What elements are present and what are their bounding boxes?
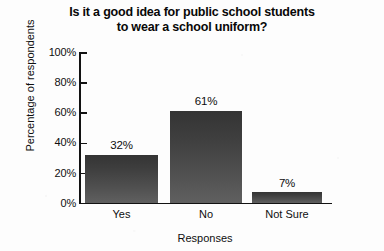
x-category-label-not-sure: Not Sure bbox=[250, 208, 324, 220]
chart-title-line-1: Is it a good idea for public school stud… bbox=[0, 5, 384, 20]
y-tick-label-20: 20% bbox=[16, 168, 76, 179]
y-tick-label-100: 100% bbox=[16, 47, 76, 58]
chart-title-line-2: to wear a school uniform? bbox=[0, 20, 384, 35]
y-tick-label-0: 0% bbox=[16, 198, 76, 209]
y-tick-label-60: 60% bbox=[16, 107, 76, 118]
bar-value-yes: 32% bbox=[85, 140, 158, 152]
plot-area bbox=[80, 52, 380, 203]
x-category-label-yes: Yes bbox=[85, 208, 158, 220]
x-axis-title: Responses bbox=[80, 232, 330, 244]
bar-yes[interactable] bbox=[85, 155, 158, 203]
bar-chart-figure: Is it a good idea for public school stud… bbox=[0, 0, 384, 251]
bar-value-not-sure: 7% bbox=[252, 178, 322, 190]
bar-not-sure[interactable] bbox=[252, 192, 322, 203]
y-tick-label-80: 80% bbox=[16, 77, 76, 88]
y-tick-label-40: 40% bbox=[16, 137, 76, 148]
chart-title: Is it a good idea for public school stud… bbox=[0, 5, 384, 35]
bar-no[interactable] bbox=[170, 111, 242, 203]
x-category-label-no: No bbox=[170, 208, 242, 220]
bar-value-no: 61% bbox=[170, 96, 242, 108]
